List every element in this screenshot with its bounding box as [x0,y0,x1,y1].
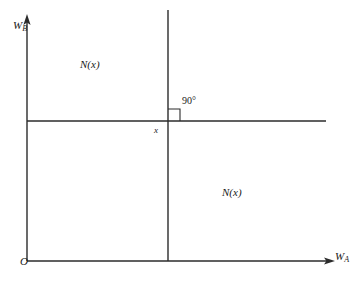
diagram-canvas: WB WA O N(x) N(x) x 90° [0,0,362,281]
point-label-x: x [154,126,158,135]
x-axis-label-subscript: A [344,255,349,264]
region-label-lower-right: N(x) [222,187,242,198]
right-angle-marker [168,109,180,121]
diagram-vector-layer [0,0,362,281]
y-axis-label-subscript: B [22,24,27,33]
y-axis-label: WB [13,20,27,31]
x-axis-label-text: W [335,250,344,262]
y-axis-label-text: W [13,19,22,31]
x-axis [27,257,335,264]
region-label-upper-left: N(x) [80,59,100,70]
x-axis-label: WA [335,251,349,262]
origin-label: O [20,256,28,267]
y-axis [23,14,30,261]
right-angle-label: 90° [182,96,196,106]
